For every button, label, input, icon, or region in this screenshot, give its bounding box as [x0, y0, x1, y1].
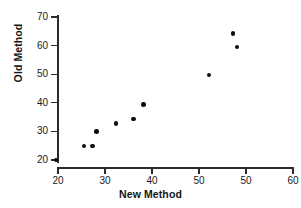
y-tick-label: 20 [24, 155, 48, 165]
x-tick-mark [245, 168, 246, 174]
data-point [235, 45, 239, 49]
data-point [82, 144, 86, 148]
x-tick-mark [151, 168, 152, 174]
x-tick-mark [104, 168, 105, 174]
y-tick-mark [51, 131, 57, 132]
y-tick-mark [51, 45, 57, 46]
x-tick-label: 30 [93, 175, 117, 186]
y-axis-line [57, 15, 59, 163]
y-tick-mark [51, 74, 57, 75]
data-point [231, 31, 235, 35]
x-tick-label: 40 [140, 175, 164, 186]
y-tick-label: 50 [24, 69, 48, 79]
y-tick-label: 70 [24, 12, 48, 22]
data-point [90, 144, 94, 148]
y-axis-title: Old Method [11, 5, 25, 101]
data-point [94, 129, 98, 133]
y-tick-label: 60 [24, 41, 48, 51]
x-axis-line [57, 167, 294, 169]
data-point [141, 102, 145, 106]
y-tick-label: 30 [24, 126, 48, 136]
data-point [207, 73, 211, 77]
x-tick-label: 60 [281, 175, 301, 186]
x-tick-mark [198, 168, 199, 174]
x-tick-label: 50 [234, 175, 258, 186]
x-axis-title: New Method [0, 188, 301, 200]
y-tick-label: 40 [24, 98, 48, 108]
x-tick-mark [292, 168, 293, 174]
data-point [131, 117, 135, 121]
x-tick-label: 50 [187, 175, 211, 186]
data-point [114, 121, 118, 125]
x-tick-label: 20 [46, 175, 70, 186]
y-tick-mark [51, 16, 57, 17]
y-tick-mark [51, 102, 57, 103]
scatter-plot: Old Method New Method 203040506070 20304… [0, 0, 301, 208]
x-tick-mark [57, 168, 58, 174]
